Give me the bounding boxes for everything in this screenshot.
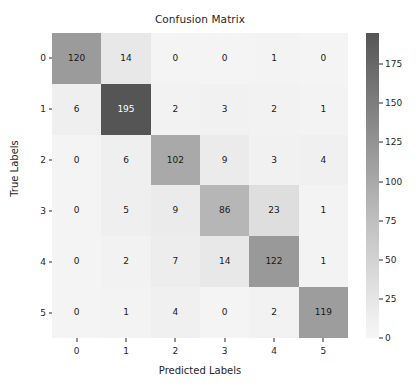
matrix-cell: 1 [299,236,348,287]
matrix-cell: 9 [151,185,200,236]
matrix-cell-value: 1 [271,54,277,63]
matrix-cell-value: 9 [222,156,228,165]
x-tick-mark [274,338,275,342]
matrix-cell: 1 [299,185,348,236]
colorbar-tick-label: 0 [385,333,391,343]
matrix-cell: 6 [52,84,101,135]
matrix-cell-value: 3 [271,156,277,165]
x-tick-label: 5 [320,346,326,356]
y-tick-label: 1 [40,104,46,114]
y-tick-label: 0 [40,53,46,63]
matrix-cell: 7 [151,236,200,287]
matrix-cell: 0 [52,236,101,287]
y-tick-label: 4 [40,257,46,267]
colorbar-tick-mark [379,220,383,221]
matrix-cell-value: 6 [123,156,129,165]
matrix-cell-value: 1 [320,206,326,215]
matrix-cell-value: 2 [172,105,178,114]
colorbar-tick-label: 175 [385,59,402,69]
matrix-cell-value: 2 [271,105,277,114]
x-tick-label: 4 [271,346,277,356]
matrix-cell: 2 [249,287,298,338]
matrix-cell-value: 119 [315,308,332,317]
matrix-cell-value: 0 [172,54,178,63]
matrix-cell: 3 [200,84,249,135]
matrix-cell-value: 86 [219,206,230,215]
matrix-cell: 120 [52,33,101,84]
matrix-cell: 0 [52,135,101,186]
matrix-cell-value: 0 [74,257,80,266]
matrix-cell: 4 [299,135,348,186]
colorbar-tick-group: 1751501251007550250 [366,33,416,338]
matrix-cell: 6 [101,135,150,186]
colorbar-tick-mark [379,338,383,339]
matrix-cell-value: 1 [123,308,129,317]
matrix-cell: 86 [200,185,249,236]
matrix-cell-value: 2 [271,308,277,317]
matrix-cell: 23 [249,185,298,236]
matrix-cell: 1 [101,287,150,338]
x-axis-tick-group: 012345 [52,338,348,362]
colorbar-tick-mark [379,298,383,299]
matrix-cell: 0 [299,33,348,84]
y-axis-label: True Labels [9,124,20,214]
matrix-cell-value: 5 [123,206,129,215]
matrix-cell-value: 120 [68,54,85,63]
matrix-cell-value: 0 [222,308,228,317]
x-tick-mark [126,338,127,342]
matrix-cell: 1 [249,33,298,84]
colorbar-tick-label: 150 [385,98,402,108]
matrix-cell-value: 102 [167,156,184,165]
matrix-cell-value: 7 [172,257,178,266]
y-tick-label: 3 [40,206,46,216]
colorbar-tick-mark [379,181,383,182]
matrix-cell-value: 0 [74,206,80,215]
matrix-cell-value: 14 [219,257,230,266]
matrix-cell: 0 [52,185,101,236]
matrix-cell-value: 6 [74,105,80,114]
x-tick-mark [224,338,225,342]
colorbar-tick-mark [379,259,383,260]
colorbar-tick-mark [379,142,383,143]
matrix-cell: 0 [151,33,200,84]
y-tick-label: 5 [40,308,46,318]
matrix-cell: 3 [249,135,298,186]
matrix-cell: 0 [200,287,249,338]
matrix-cell-value: 0 [222,54,228,63]
y-tick-label: 2 [40,155,46,165]
matrix-cell-value: 9 [172,206,178,215]
x-tick-mark [323,338,324,342]
matrix-cell: 1 [299,84,348,135]
matrix-cell-value: 195 [117,105,134,114]
colorbar-tick-mark [379,103,383,104]
x-tick-mark [175,338,176,342]
colorbar-tick-label: 25 [385,294,396,304]
colorbar-tick-label: 125 [385,137,402,147]
x-tick-label: 0 [74,346,80,356]
colorbar-tick-mark [379,64,383,65]
matrix-cell: 102 [151,135,200,186]
matrix-cell-value: 4 [320,156,326,165]
matrix-cell-value: 0 [74,308,80,317]
matrix-cell: 4 [151,287,200,338]
x-tick-label: 2 [172,346,178,356]
colorbar-tick-label: 75 [385,216,396,226]
matrix-cell: 14 [200,236,249,287]
heatmap-plot-area: 1201400106195232106102934059862310271412… [52,33,348,338]
matrix-cell: 0 [52,287,101,338]
x-tick-label: 1 [123,346,129,356]
matrix-cell: 2 [151,84,200,135]
matrix-cell-value: 0 [320,54,326,63]
matrix-cell-value: 1 [320,105,326,114]
matrix-cell: 14 [101,33,150,84]
matrix-cell-value: 122 [265,257,282,266]
matrix-cell: 195 [101,84,150,135]
matrix-cell: 0 [200,33,249,84]
x-tick-label: 3 [222,346,228,356]
colorbar-tick-label: 100 [385,177,402,187]
matrix-cell: 5 [101,185,150,236]
matrix-cell: 9 [200,135,249,186]
matrix-cell-value: 4 [172,308,178,317]
matrix-cell: 119 [299,287,348,338]
colorbar-tick-label: 50 [385,255,396,265]
